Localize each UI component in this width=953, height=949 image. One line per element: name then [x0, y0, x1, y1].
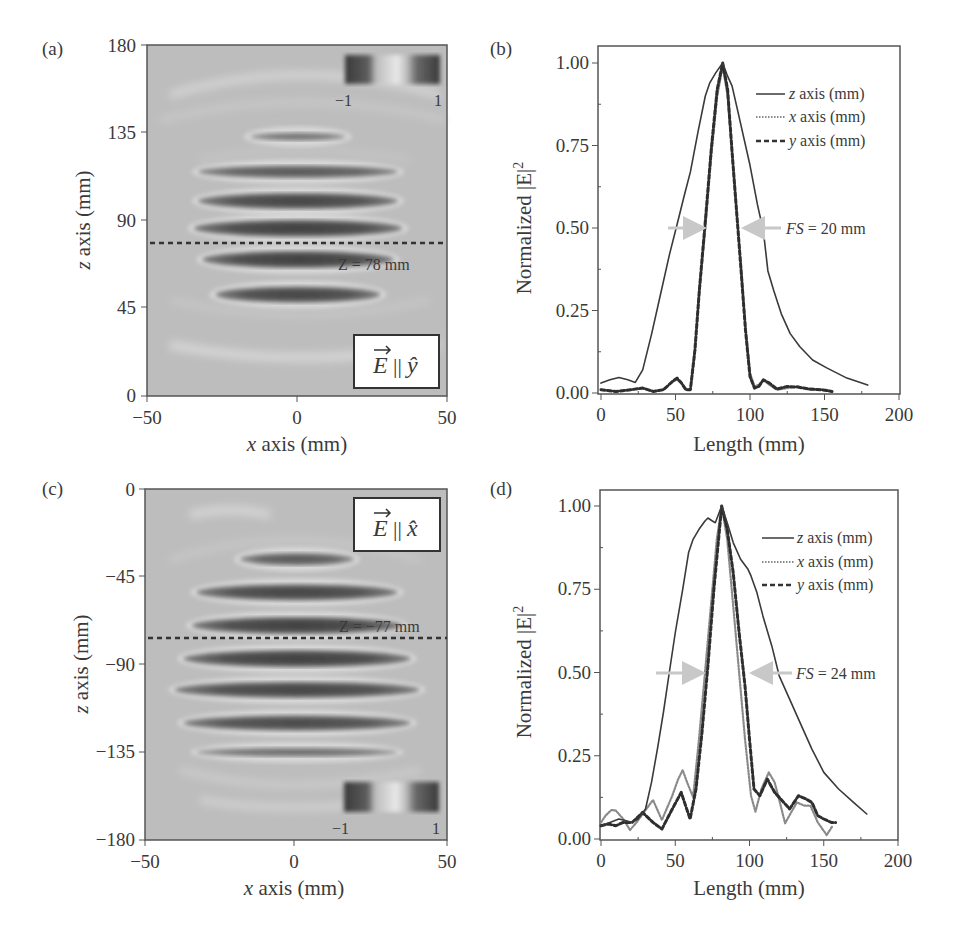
- field-lobe: [198, 193, 398, 209]
- legend-z: z axis (mm): [796, 529, 873, 547]
- panel-c-colorbar-max: 1: [432, 820, 440, 837]
- panel-c-y-ticks: −180 −135 −90 −45 0: [96, 479, 145, 850]
- field-lobe: [215, 287, 380, 303]
- panel-a-cut-label: Z = 78 mm: [338, 256, 410, 273]
- panel-c-y-axis-title: z axis (mm): [69, 614, 93, 714]
- svg-text:−45: −45: [105, 566, 135, 587]
- panel-c-x-ticks: −50 0 50: [130, 840, 456, 872]
- panel-a-polarization-box: E || ŷ: [354, 335, 439, 388]
- field-lobe: [240, 553, 354, 566]
- legend-x: x axis (mm): [788, 108, 865, 126]
- svg-text:50: 50: [666, 404, 685, 425]
- svg-text:−135: −135: [96, 741, 135, 762]
- panel-c-x-axis-title: x axis (mm): [243, 876, 344, 900]
- svg-text:1.00: 1.00: [556, 52, 589, 73]
- svg-text:150: 150: [810, 850, 839, 871]
- svg-text:−90: −90: [105, 654, 135, 675]
- panel-a: (a) Z = 78 mm −1 1 E || ŷ: [42, 35, 457, 456]
- svg-text:0: 0: [596, 404, 606, 425]
- panel-a-x-axis-title: x axis (mm): [246, 432, 347, 456]
- svg-text:100: 100: [736, 404, 765, 425]
- field-lobe: [196, 748, 397, 757]
- panel-d-tag: (d): [490, 478, 512, 500]
- panel-a-colorbar-max: 1: [434, 92, 442, 109]
- field-lobe: [250, 133, 346, 141]
- panel-b-y-axis-title: Normalized |E|2: [511, 162, 536, 295]
- panel-b: (b) 0.000.250.500.751.00 050100150200 FS…: [490, 38, 913, 456]
- panel-a-colorbar-min: −1: [335, 92, 352, 109]
- panel-b-y-ticks: 0.000.250.500.751.00: [556, 52, 601, 403]
- panel-b-x-ticks: 050100150200: [596, 391, 913, 425]
- svg-text:0.00: 0.00: [556, 382, 589, 403]
- panel-a-y-axis-title: z axis (mm): [71, 170, 95, 270]
- panel-a-parallel-symbol: ||: [393, 353, 402, 378]
- panel-a-tag: (a): [42, 38, 63, 60]
- svg-text:50: 50: [438, 407, 457, 428]
- svg-text:0.50: 0.50: [558, 662, 591, 683]
- legend-x: x axis (mm): [796, 553, 873, 571]
- panel-c-e-vector: E: [372, 515, 388, 541]
- svg-text:150: 150: [810, 404, 839, 425]
- svg-text:0: 0: [127, 385, 137, 406]
- svg-text:0.25: 0.25: [558, 745, 591, 766]
- svg-text:200: 200: [885, 404, 914, 425]
- panel-d-fs-label: FS = 24 mm: [795, 665, 876, 682]
- svg-text:135: 135: [108, 122, 137, 143]
- panel-c-cut-label: Z = −77 mm: [339, 618, 420, 635]
- panel-c-colorbar-min: −1: [332, 820, 349, 837]
- legend-y: y axis (mm): [795, 576, 873, 594]
- svg-text:−50: −50: [130, 851, 160, 872]
- svg-text:1.00: 1.00: [558, 495, 591, 516]
- panel-c-tag: (c): [42, 478, 63, 500]
- panel-a-e-vector: E: [372, 352, 388, 378]
- panel-a-unit-vector: ŷ: [405, 352, 418, 378]
- panel-d-y-ticks: 0.000.250.500.751.00: [558, 495, 603, 849]
- svg-text:0.50: 0.50: [556, 217, 589, 238]
- field-lobe: [194, 220, 403, 237]
- panel-a-y-ticks: 0 45 90 135 180: [108, 35, 148, 406]
- figure-canvas: (a) Z = 78 mm −1 1 E || ŷ: [0, 0, 953, 949]
- field-lobe: [196, 584, 397, 600]
- svg-text:45: 45: [117, 297, 136, 318]
- svg-text:−50: −50: [132, 407, 162, 428]
- field-lobe: [174, 682, 419, 698]
- panel-d-x-ticks: 050100150200: [596, 837, 912, 871]
- svg-text:−180: −180: [96, 829, 135, 850]
- panel-c-polarization-box: E || x̂: [354, 498, 440, 551]
- legend-y: y axis (mm): [787, 132, 865, 150]
- field-lobe: [183, 650, 411, 667]
- panel-c-parallel-symbol: ||: [393, 516, 402, 541]
- svg-text:0.75: 0.75: [558, 578, 591, 599]
- field-lobe: [198, 165, 398, 178]
- svg-text:0: 0: [596, 850, 606, 871]
- panel-b-tag: (b): [490, 38, 512, 60]
- svg-text:0: 0: [292, 407, 302, 428]
- panel-a-x-ticks: −50 0 50: [132, 396, 456, 428]
- legend-z: z axis (mm): [788, 85, 865, 103]
- svg-text:100: 100: [735, 850, 764, 871]
- svg-text:200: 200: [884, 850, 913, 871]
- svg-text:0: 0: [126, 479, 136, 500]
- svg-text:0: 0: [289, 851, 299, 872]
- svg-text:0.00: 0.00: [558, 828, 591, 849]
- panel-b-legend: z axis (mm) x axis (mm) y axis (mm): [756, 85, 865, 150]
- field-lobe: [183, 715, 411, 730]
- svg-text:0.75: 0.75: [556, 135, 589, 156]
- svg-text:0.25: 0.25: [556, 300, 589, 321]
- svg-text:180: 180: [108, 35, 137, 56]
- svg-text:50: 50: [438, 851, 457, 872]
- panel-d-x-axis-title: Length (mm): [693, 876, 804, 900]
- panel-c-unit-vector: x̂: [406, 515, 418, 541]
- panel-d-y-axis-title: Normalized |E|2: [511, 606, 536, 739]
- svg-text:50: 50: [666, 850, 685, 871]
- panel-b-fs-label: FS = 20 mm: [785, 220, 866, 237]
- panel-c: (c) Z = −77 mm −1 1 E || x̂: [42, 478, 457, 900]
- panel-b-x-axis-title: Length (mm): [693, 432, 804, 456]
- svg-text:90: 90: [117, 210, 136, 231]
- panel-d: (d) 0.000.250.500.751.00 050100150200 FS…: [490, 478, 912, 900]
